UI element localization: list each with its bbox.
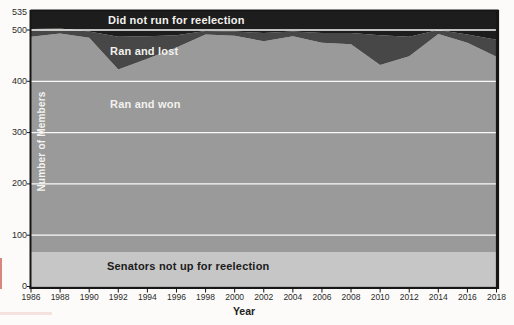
y-tick-label-0: 0 xyxy=(0,281,27,292)
area-ran-and-won xyxy=(31,34,497,253)
y-tick-label-500: 500 xyxy=(0,25,27,36)
area-label-ran-and-lost: Ran and lost xyxy=(110,45,178,57)
y-tick-label-200: 200 xyxy=(0,178,27,189)
scan-smudge-artifact xyxy=(0,312,52,315)
area-label-ran-and-won: Ran and won xyxy=(110,98,181,110)
stacked-area-chart-figure: 5355004003002001000 19861988199019921994… xyxy=(0,0,514,325)
y-axis-title: Number of Members xyxy=(36,82,49,202)
x-tick-label-2018: 2018 xyxy=(480,292,514,302)
y-tick-label-535: 535 xyxy=(0,7,27,18)
x-axis-title: Year xyxy=(214,305,274,317)
y-tick-label-300: 300 xyxy=(0,127,27,138)
y-tick-label-100: 100 xyxy=(0,230,27,241)
y-tick-label-400: 400 xyxy=(0,76,27,87)
scan-edge-artifact xyxy=(0,258,2,289)
area-label-did-not-run: Did not run for reelection xyxy=(108,14,245,26)
plot-canvas xyxy=(0,0,514,325)
area-label-senators-not-up: Senators not up for reelection xyxy=(107,260,269,272)
